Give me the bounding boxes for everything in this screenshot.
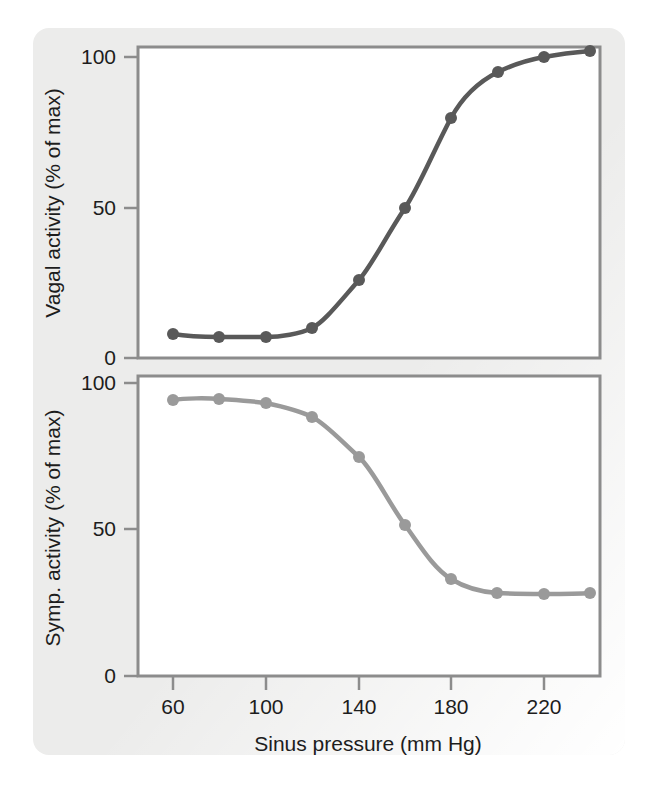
xtick-label-100: 100 bbox=[248, 695, 283, 718]
xtick-label-140: 140 bbox=[341, 695, 376, 718]
xtick-label-60: 60 bbox=[161, 695, 184, 718]
data-point bbox=[492, 66, 504, 78]
data-point bbox=[167, 328, 179, 340]
xtick-label-180: 180 bbox=[433, 695, 468, 718]
top-panel: 100 50 0 Vagal activity (% of max) bbox=[41, 45, 600, 369]
data-point bbox=[213, 393, 225, 405]
top-ytick-label-50: 50 bbox=[93, 196, 116, 219]
data-point bbox=[584, 45, 596, 57]
data-point bbox=[167, 394, 179, 406]
data-point bbox=[538, 51, 550, 63]
bottom-ytick-label-100: 100 bbox=[81, 371, 116, 394]
bottom-ytick-label-50: 50 bbox=[93, 517, 116, 540]
top-panel-plot-area bbox=[138, 47, 600, 358]
data-point bbox=[306, 322, 318, 334]
top-ytick-label-100: 100 bbox=[81, 45, 116, 68]
figure-root: 100 50 0 Vagal activity (% of max) bbox=[0, 0, 653, 787]
baroreflex-chart: 100 50 0 Vagal activity (% of max) bbox=[0, 0, 653, 787]
data-point bbox=[260, 397, 272, 409]
data-point bbox=[353, 451, 365, 463]
top-panel-y-ticks bbox=[124, 57, 138, 358]
data-point bbox=[399, 519, 411, 531]
x-axis-title: Sinus pressure (mm Hg) bbox=[254, 732, 482, 755]
bottom-ytick-label-0: 0 bbox=[104, 664, 116, 687]
bottom-panel-y-axis-title: Symp. activity (% of max) bbox=[41, 410, 64, 647]
bottom-panel: 100 50 0 Symp. activity (% of max) bbox=[41, 371, 600, 755]
data-point bbox=[260, 331, 272, 343]
bottom-panel-plot-area bbox=[138, 376, 600, 676]
data-point bbox=[399, 202, 411, 214]
data-point bbox=[213, 331, 225, 343]
data-point bbox=[445, 573, 457, 585]
data-point bbox=[491, 587, 503, 599]
bottom-panel-y-ticks bbox=[124, 383, 138, 676]
data-point bbox=[353, 274, 365, 286]
top-ytick-label-0: 0 bbox=[104, 346, 116, 369]
data-point bbox=[538, 588, 550, 600]
top-panel-y-axis-title: Vagal activity (% of max) bbox=[41, 88, 64, 318]
data-point bbox=[445, 112, 457, 124]
xtick-label-220: 220 bbox=[526, 695, 561, 718]
data-point bbox=[584, 587, 596, 599]
data-point bbox=[306, 411, 318, 423]
x-axis-ticks bbox=[173, 676, 544, 690]
